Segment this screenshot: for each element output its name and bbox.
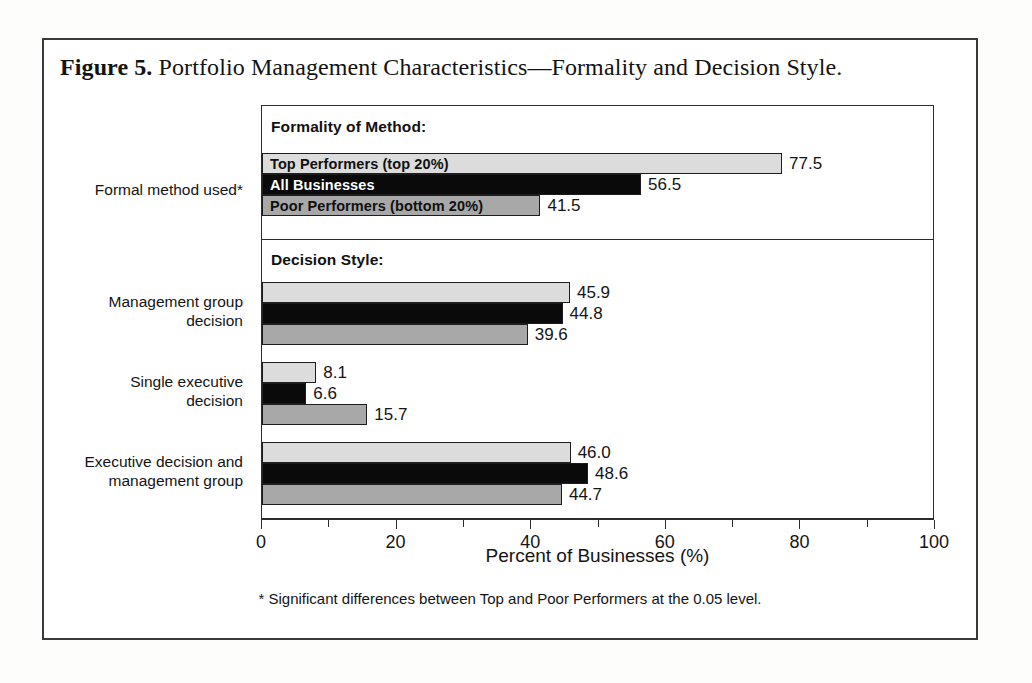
bar-row-single-poor: 15.7 [262, 404, 933, 425]
x-tick-20 [396, 520, 397, 529]
x-tick-90 [867, 520, 868, 527]
bar-row-single-all: 6.6 [262, 383, 933, 404]
x-tick-10 [328, 520, 329, 527]
figure-caption-text: Portfolio Management Characteristics—For… [152, 54, 842, 80]
bar-mgmt-all [262, 303, 563, 324]
plot-area: Formality of Method: Top Performers (top… [261, 105, 934, 519]
bar-value-exec-top: 46.0 [571, 443, 611, 463]
x-tick-40 [530, 520, 531, 529]
x-tick-60 [665, 520, 666, 529]
bar-row-single-top: 8.1 [262, 362, 933, 383]
figure-caption: Figure 5. Portfolio Management Character… [60, 54, 964, 81]
figure-frame: Figure 5. Portfolio Management Character… [42, 38, 978, 640]
bar-value-formal-top: 77.5 [782, 154, 822, 174]
bar-value-mgmt-top: 45.9 [570, 283, 610, 303]
x-axis: 0 20 40 60 80 100 [261, 519, 934, 520]
category-label-single-executive: Single executive decision [130, 372, 243, 410]
bar-row-mgmt-poor: 39.6 [262, 324, 933, 345]
figure-number: Figure 5. [60, 54, 152, 80]
bar-value-exec-all: 48.6 [588, 464, 628, 484]
bar-row-formal-top: Top Performers (top 20%) 77.5 [262, 153, 933, 174]
category-label-management-group: Management group decision [109, 292, 243, 330]
bar-exec-top [262, 442, 571, 463]
x-tick-0 [261, 520, 262, 529]
bar-value-single-all: 6.6 [306, 384, 337, 404]
bar-value-mgmt-all: 44.8 [563, 304, 603, 324]
legend-label-top: Top Performers (top 20%) [270, 156, 449, 172]
x-axis-title: Percent of Businesses (%) [261, 545, 934, 567]
legend-label-poor: Poor Performers (bottom 20%) [270, 198, 483, 214]
x-tick-80 [799, 520, 800, 529]
x-tick-70 [732, 520, 733, 527]
bar-exec-all [262, 463, 588, 484]
bar-row-exec-all: 48.6 [262, 463, 933, 484]
bar-group-executive-and-group: 46.0 48.6 44.7 [262, 442, 933, 505]
bar-row-exec-top: 46.0 [262, 442, 933, 463]
bar-value-mgmt-poor: 39.6 [528, 325, 568, 345]
bar-single-all [262, 383, 306, 404]
bar-row-formal-all: All Businesses 56.5 [262, 174, 933, 195]
bar-row-formal-poor: Poor Performers (bottom 20%) 41.5 [262, 195, 933, 216]
bar-formal-poor: Poor Performers (bottom 20%) [262, 195, 540, 216]
bar-row-exec-poor: 44.7 [262, 484, 933, 505]
bar-value-formal-poor: 41.5 [540, 196, 580, 216]
bar-group-management-group: 45.9 44.8 39.6 [262, 282, 933, 345]
bar-row-mgmt-top: 45.9 [262, 282, 933, 303]
bar-single-top [262, 362, 316, 383]
x-tick-30 [463, 520, 464, 527]
panel-heading-formality: Formality of Method: [271, 118, 426, 136]
bar-single-poor [262, 404, 367, 425]
bar-mgmt-top [262, 282, 570, 303]
panel-heading-decision-style: Decision Style: [271, 251, 384, 269]
x-tick-50 [598, 520, 599, 527]
bar-mgmt-poor [262, 324, 528, 345]
legend-label-all: All Businesses [270, 177, 375, 193]
bar-value-single-poor: 15.7 [367, 405, 407, 425]
category-label-formal-method: Formal method used* [95, 180, 243, 199]
panel-divider [262, 239, 933, 240]
bar-value-single-top: 8.1 [316, 363, 347, 383]
bar-formal-all: All Businesses [262, 174, 641, 195]
bar-group-single-executive: 8.1 6.6 15.7 [262, 362, 933, 425]
bar-exec-poor [262, 484, 562, 505]
figure-footnote: * Significant differences between Top an… [44, 590, 976, 607]
bar-value-formal-all: 56.5 [641, 175, 681, 195]
bar-row-mgmt-all: 44.8 [262, 303, 933, 324]
x-tick-100 [934, 520, 935, 529]
category-label-executive-and-group: Executive decision and management group [84, 452, 243, 490]
bar-group-formal-method: Top Performers (top 20%) 77.5 All Busine… [262, 153, 933, 216]
bar-value-exec-poor: 44.7 [562, 485, 602, 505]
bar-formal-top: Top Performers (top 20%) [262, 153, 782, 174]
